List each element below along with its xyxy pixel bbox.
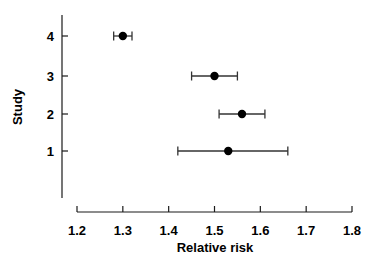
point-estimate-marker	[238, 110, 246, 118]
x-tick-label: 1.4	[160, 224, 178, 237]
plot-canvas	[0, 0, 375, 267]
forest-row	[114, 32, 132, 41]
x-tick-label: 1.2	[68, 224, 86, 237]
x-axis-ticks	[77, 206, 352, 212]
forest-row	[178, 147, 288, 156]
x-tick-label: 1.6	[251, 224, 269, 237]
forest-plot-figure: 1.21.31.41.51.61.71.8 4321 Relative risk…	[0, 0, 375, 267]
y-tick-label: 4	[36, 30, 54, 43]
x-tick-label: 1.7	[297, 224, 315, 237]
y-axis-title: Study	[11, 89, 24, 125]
y-tick-label: 2	[36, 108, 54, 121]
y-axis-ticks	[62, 36, 68, 151]
x-tick-label: 1.5	[205, 224, 223, 237]
point-estimate-marker	[210, 72, 218, 80]
y-tick-label: 1	[36, 145, 54, 158]
plot-area: 1.21.31.41.51.61.71.8 4321	[0, 0, 375, 267]
forest-row	[192, 72, 238, 81]
x-tick-label: 1.3	[114, 224, 132, 237]
point-estimate-marker	[119, 32, 127, 40]
point-estimate-marker	[224, 147, 232, 155]
forest-row	[219, 110, 265, 119]
x-axis-title: Relative risk	[177, 241, 254, 254]
y-tick-label: 3	[36, 70, 54, 83]
x-tick-label: 1.8	[343, 224, 361, 237]
data-series	[114, 32, 288, 156]
